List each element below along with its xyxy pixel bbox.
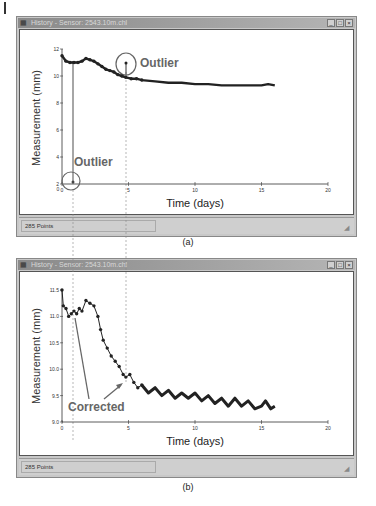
svg-text:5: 5 — [127, 187, 130, 193]
svg-text:5: 5 — [127, 425, 130, 431]
y-axis-label: Measurement (mm) — [30, 308, 42, 404]
y-tick-labels: 9.09.510.010.511.011.5 — [49, 287, 63, 425]
svg-text:20: 20 — [325, 425, 331, 431]
svg-text:9.5: 9.5 — [52, 393, 59, 399]
corrected-arrow-1 — [75, 318, 89, 399]
svg-text:11.0: 11.0 — [50, 313, 60, 319]
svg-text:10: 10 — [53, 73, 59, 79]
outlier-label-high: Outlier — [140, 56, 179, 70]
chart-a: 24681012 051015200 Measurement (mm) Time… — [30, 46, 331, 209]
svg-text:0: 0 — [61, 187, 64, 193]
svg-text:8: 8 — [56, 100, 59, 106]
y-axis-label: Measurement (mm) — [30, 70, 42, 166]
outlier-label-low: Outlier — [74, 155, 113, 169]
svg-text:20: 20 — [325, 187, 331, 193]
svg-text:12: 12 — [53, 46, 59, 52]
chart-b: 9.09.510.010.511.011.5 05101520 Measurem… — [30, 287, 331, 447]
outlier-circle-low — [62, 172, 80, 190]
data-series — [60, 288, 274, 409]
svg-text:15: 15 — [259, 425, 265, 431]
svg-text:15: 15 — [259, 187, 265, 193]
y-tick-labels: 24681012 — [53, 46, 63, 187]
charts-overlay: 24681012 051015200 Measurement (mm) Time… — [0, 0, 376, 506]
corrected-label: Corrected — [68, 400, 125, 414]
svg-text:11.5: 11.5 — [50, 287, 60, 293]
svg-text:4: 4 — [56, 154, 59, 160]
svg-text:10.5: 10.5 — [49, 340, 59, 346]
x-axis-label: Time (days) — [166, 197, 224, 209]
svg-text:10.0: 10.0 — [49, 366, 59, 372]
svg-text:0: 0 — [57, 186, 60, 192]
svg-text:9.0: 9.0 — [52, 419, 59, 425]
x-axis-label: Time (days) — [166, 435, 224, 447]
svg-text:6: 6 — [56, 127, 59, 133]
svg-text:10: 10 — [192, 425, 198, 431]
svg-text:10: 10 — [192, 187, 198, 193]
svg-text:0: 0 — [61, 425, 64, 431]
